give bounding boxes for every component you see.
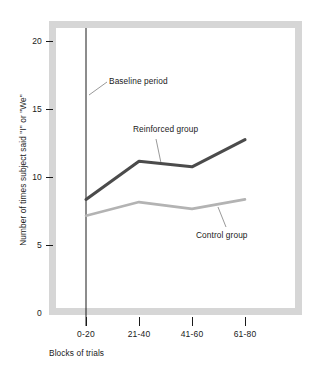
- chart-canvas: [0, 0, 313, 369]
- chart-figure: 20 15 10 5 0 Number of times subject sai…: [0, 0, 313, 369]
- annotation-reinforced-group: Reinforced group: [133, 124, 198, 134]
- series-line-control: [86, 199, 245, 215]
- control-leader-line: [218, 207, 226, 227]
- annotation-control-group: Control group: [196, 230, 248, 240]
- series-line-reinforced: [86, 140, 245, 200]
- reinforced-leader-line: [156, 139, 161, 163]
- annotation-baseline-period: Baseline period: [109, 76, 168, 86]
- baseline-leader-line: [89, 82, 107, 95]
